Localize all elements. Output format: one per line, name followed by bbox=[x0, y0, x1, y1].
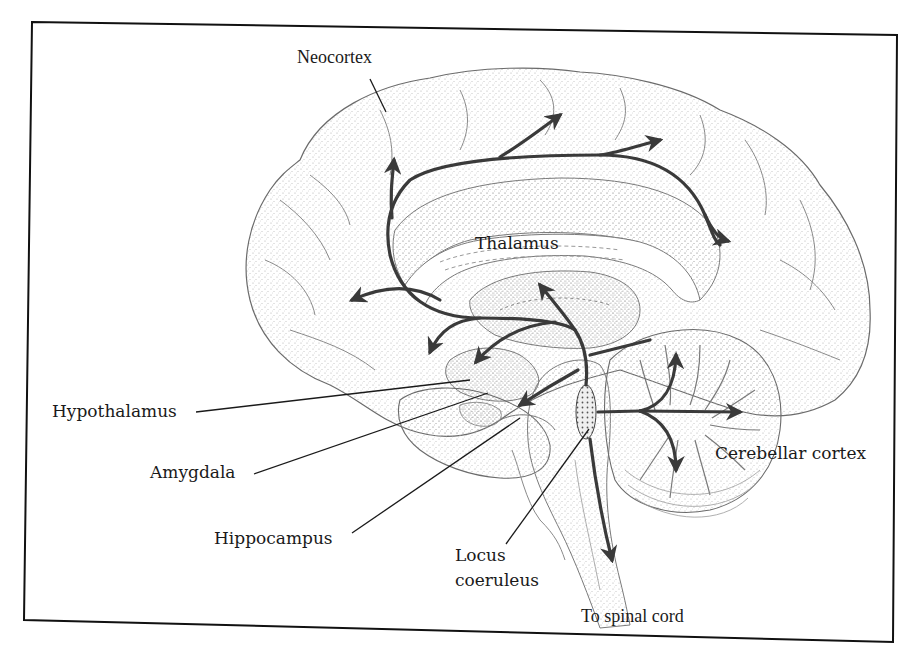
label-cerebellar-cortex: Cerebellar cortex bbox=[715, 443, 866, 463]
brain-diagram: Neocortex Thalamus Hypothalamus Amygdala… bbox=[0, 0, 911, 667]
label-hypothalamus: Hypothalamus bbox=[52, 401, 177, 421]
cerebellum bbox=[605, 330, 781, 518]
label-locus-coeruleus-line2: coeruleus bbox=[455, 570, 539, 590]
label-thalamus: Thalamus bbox=[475, 233, 559, 253]
pathway-to-cerebellum-trunk bbox=[598, 411, 640, 412]
locus-coeruleus-nucleus bbox=[576, 385, 596, 439]
pathway-to-cerebellum-right bbox=[640, 411, 740, 412]
label-hippocampus: Hippocampus bbox=[214, 528, 333, 548]
label-amygdala: Amygdala bbox=[150, 462, 235, 482]
diagram-canvas bbox=[0, 0, 911, 667]
label-to-spinal-cord: To spinal cord bbox=[581, 606, 684, 628]
label-neocortex: Neocortex bbox=[297, 47, 372, 69]
label-locus-coeruleus-line1: Locus bbox=[455, 545, 506, 565]
